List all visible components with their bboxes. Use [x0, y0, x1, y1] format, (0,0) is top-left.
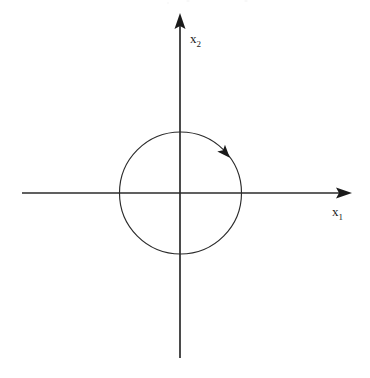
- x2-axis-label-subscript: 2: [197, 39, 202, 49]
- x1-axis-label: x1: [332, 205, 343, 222]
- x1-axis-label-subscript: 1: [339, 212, 344, 222]
- x2-axis-label: x2: [190, 32, 201, 49]
- phase-portrait-canvas: [0, 0, 370, 378]
- phase-portrait-figure: x2 x1: [0, 0, 370, 378]
